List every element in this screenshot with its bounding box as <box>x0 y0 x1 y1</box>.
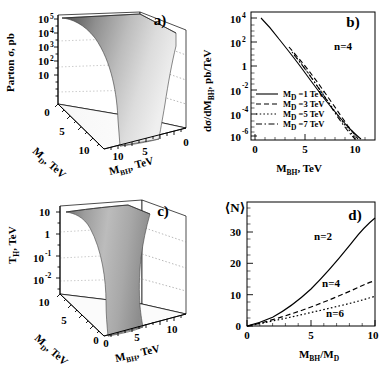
svg-text:MD, TeV: MD, TeV <box>29 145 69 183</box>
z-mantissa: 1 <box>45 228 51 240</box>
y-tick: 5 <box>134 331 140 343</box>
y-mantissa: 10 <box>230 37 242 49</box>
y-mantissa: 10 <box>230 109 242 121</box>
svg-text:10: 10 <box>38 41 50 53</box>
svg-text:1: 1 <box>242 60 248 72</box>
panel-b-annotation: n=4 <box>334 40 352 52</box>
y-mantissa: 10 <box>230 131 242 143</box>
z-mantissa: 10 <box>33 274 45 286</box>
x-label-tail: , TeV <box>44 342 70 367</box>
z-mantissa: 10 <box>38 41 50 53</box>
panel-c-svg: 10 1 10 10 -1 -2 TH, TeV <box>0 184 195 372</box>
y-label-d1: dσ/dM <box>201 100 213 132</box>
panel-c-letter: c) <box>157 203 169 220</box>
y-exponent: -4 <box>242 105 248 114</box>
x-label-sub2: D <box>334 354 340 363</box>
panel-b-y-tick-exponents: 4 2 -2 -4 -6 <box>242 11 248 136</box>
panel-b-letter: b) <box>346 14 359 31</box>
y-mantissa: 10 <box>230 85 242 97</box>
z-mantissa: 10 <box>33 252 45 264</box>
panel-d-y-axis-label: ⟨N⟩ <box>225 200 244 215</box>
z-label-tail: , TeV <box>6 226 18 251</box>
panel-d-x-tick-labels: 0 5 10 <box>244 329 379 341</box>
x-tick: 10 <box>368 329 380 341</box>
x-tick: 10 <box>39 296 51 308</box>
svg-text:MBH, TeV: MBH, TeV <box>114 342 162 367</box>
panel-d-label-n6: n=6 <box>326 307 344 319</box>
y-label-sub: BH <box>207 89 216 100</box>
panel-b-svg: 10 10 1 10 10 10 4 2 -2 -4 -6 dσ/dMBH, p… <box>195 0 387 188</box>
x-tick: 10 <box>350 143 362 155</box>
z-tick-labels: 10 10 10 10 10 <box>38 13 50 81</box>
x-tick: 5 <box>308 329 314 341</box>
legend-value: =5 TeV <box>296 109 325 119</box>
y-exponent: 4 <box>242 11 246 20</box>
y-tick: 10 <box>113 150 125 162</box>
y-tick: 0 <box>183 136 189 148</box>
svg-text:10: 10 <box>230 13 242 25</box>
panel-a-svg: 10 10 10 10 10 5 4 3 2 Parton σ, pb <box>0 0 195 188</box>
panel-c-y-axis-label: MBH, TeV <box>114 342 162 367</box>
y-tick: 20 <box>230 257 242 269</box>
x-label-mid: /M <box>319 348 334 360</box>
y-label-tail: , TeV <box>134 342 161 359</box>
z-mantissa: 10 <box>39 206 51 218</box>
panel-b-x-axis-label: MBH, TeV <box>276 162 322 177</box>
panel-c: 10 1 10 10 -1 -2 TH, TeV <box>0 184 195 372</box>
svg-text:MBH/MD: MBH/MD <box>299 348 340 363</box>
svg-text:MBH, TeV: MBH, TeV <box>276 162 322 177</box>
svg-text:TH, TeV: TH, TeV <box>6 226 21 264</box>
z-exponent: -2 <box>45 271 51 280</box>
svg-text:MD, TeV: MD, TeV <box>31 332 71 370</box>
y-exponent: -6 <box>242 127 248 136</box>
z-exponent: -1 <box>45 249 51 258</box>
x-label-tail: , TeV <box>297 162 322 174</box>
x-tick: 5 <box>302 143 308 155</box>
x-label-base: M <box>299 348 310 360</box>
panel-b-y-axis-label: dσ/dMBH, pb/TeV <box>201 49 216 132</box>
z-tick-marks <box>54 19 58 96</box>
y-tick: 10 <box>167 323 179 335</box>
y-exponent: -2 <box>242 81 248 90</box>
legend-value: =3 TeV <box>296 99 325 109</box>
panel-c-z-tick-exponents: -1 -2 <box>45 249 51 280</box>
z-tick-marks <box>56 212 60 289</box>
panel-a: 10 10 10 10 10 5 4 3 2 Parton σ, pb <box>0 0 195 188</box>
y-tick: 30 <box>230 226 242 238</box>
legend-base: M <box>283 99 291 109</box>
y-label-tail: , pb/TeV <box>201 49 213 89</box>
z-exponent: 2 <box>50 54 54 63</box>
x-label-sub: BH <box>309 354 320 363</box>
figure-root: 10 10 10 10 10 5 4 3 2 Parton σ, pb <box>0 0 387 372</box>
y-label-tail: , TeV <box>128 154 155 172</box>
panel-b-x-tick-labels: 0 5 10 <box>252 143 361 155</box>
svg-text:10: 10 <box>38 55 50 67</box>
x-label-base: M <box>276 162 287 174</box>
panel-a-x-axis-label: MD, TeV <box>29 145 69 183</box>
z-mantissa: 10 <box>38 69 50 81</box>
legend-base: M <box>283 89 291 99</box>
x-label-sub: BH <box>287 168 298 177</box>
z-mantissa: 10 <box>38 27 50 39</box>
y-mantissa: 1 <box>242 60 248 72</box>
y-tick: 0 <box>236 320 242 332</box>
svg-text:10: 10 <box>230 85 242 97</box>
legend-base: M <box>283 119 291 129</box>
svg-text:10: 10 <box>39 206 51 218</box>
z-exponent: 5 <box>50 12 54 21</box>
y-tick: 10 <box>230 289 242 301</box>
svg-text:10: 10 <box>33 252 45 264</box>
panel-d-letter: d) <box>348 207 361 224</box>
panel-c-x-axis-label: MD, TeV <box>31 332 71 370</box>
z-exponent: 4 <box>50 26 54 35</box>
legend-value: =7 TeV <box>296 119 325 129</box>
panel-d-y-tick-labels: 0 10 20 30 <box>230 226 242 332</box>
x-tick: 5 <box>61 314 67 326</box>
panel-a-letter: a) <box>154 12 167 29</box>
y-exponent: 2 <box>242 35 246 44</box>
svg-text:dσ/dMBH, pb/TeV: dσ/dMBH, pb/TeV <box>201 49 216 132</box>
x-tick: 5 <box>59 125 65 137</box>
z-tick-exponents: 5 4 3 2 <box>50 12 54 63</box>
svg-text:10: 10 <box>33 274 45 286</box>
svg-text:10: 10 <box>38 69 50 81</box>
